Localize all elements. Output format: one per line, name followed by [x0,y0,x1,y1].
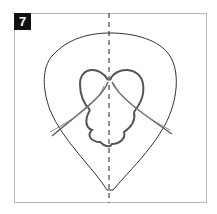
pick-outline [44,33,176,190]
knot [50,70,172,146]
knot-illustration [0,0,217,214]
